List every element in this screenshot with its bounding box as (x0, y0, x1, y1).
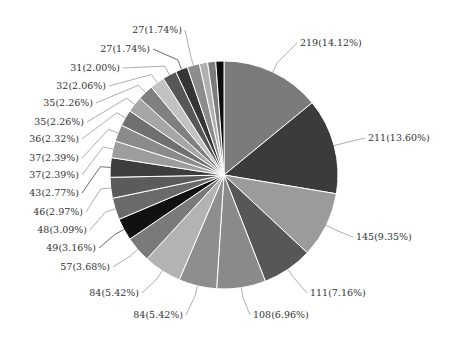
leader-line (82, 167, 110, 193)
slice-label: 36(2.32%) (29, 133, 79, 144)
slice-label: 46(2.97%) (33, 206, 83, 217)
slice-label: 27(1.74%) (132, 24, 182, 35)
slice-label: 32(2.06%) (56, 80, 106, 91)
leader-line (142, 271, 162, 293)
slice-label: 211(13.60%) (368, 132, 430, 143)
slice-label: 43(2.77%) (29, 187, 79, 198)
leader-line (273, 43, 297, 72)
slice-label: 35(2.26%) (34, 116, 84, 127)
leader-line (185, 30, 193, 65)
leader-line (90, 209, 115, 230)
slice-label: 108(6.96%) (253, 309, 309, 320)
pie-slices (110, 61, 338, 289)
leader-line (113, 250, 138, 268)
leader-line (123, 66, 170, 75)
slice-label: 57(3.68%) (60, 261, 110, 272)
leader-line (99, 230, 124, 249)
slice-label: 145(9.35%) (356, 231, 412, 242)
leader-line (109, 75, 157, 87)
slice-label: 27(1.74%) (100, 43, 150, 54)
slice-label: 37(2.39%) (29, 152, 79, 163)
slice-label: 219(14.12%) (300, 37, 362, 48)
slice-label: 111(7.16%) (310, 287, 366, 298)
slice-label: 35(2.26%) (43, 97, 93, 108)
slice-label: 49(3.16%) (46, 242, 96, 253)
leader-line (334, 138, 365, 146)
slice-label: 84(5.42%) (133, 309, 183, 320)
slice-label: 48(3.09%) (37, 224, 87, 235)
slice-label: 31(2.00%) (70, 62, 120, 73)
leader-line (186, 286, 198, 315)
pie-chart: 219(14.12%)211(13.60%)145(9.35%)111(7.16… (0, 0, 454, 344)
slice-label: 84(5.42%) (89, 287, 139, 298)
leader-line (86, 188, 111, 212)
leader-line (288, 269, 307, 293)
slice-label: 37(2.39%) (29, 169, 79, 180)
leader-line (326, 225, 353, 237)
leader-line (241, 288, 250, 315)
